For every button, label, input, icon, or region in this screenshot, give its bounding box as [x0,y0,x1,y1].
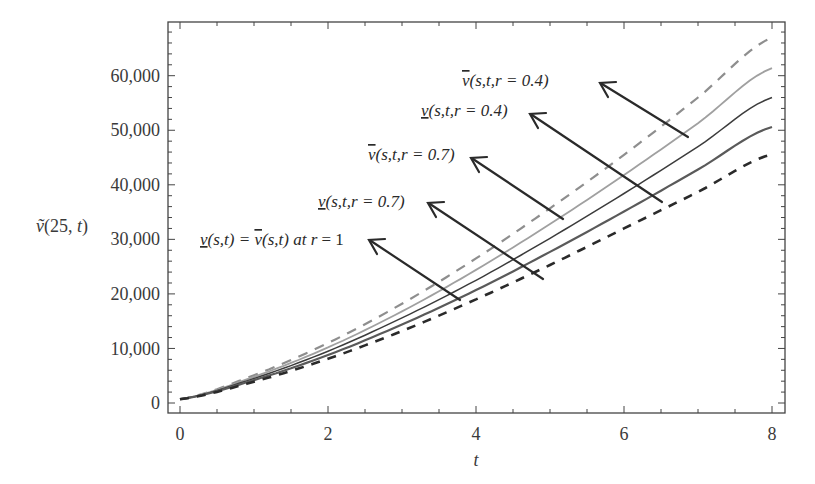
y-tick-0: 0 [151,393,160,413]
x-tick-6: 6 [620,424,629,444]
annotation-vbar-r07: v(s,t,r = 0.7) [368,145,455,164]
y-tick-60000: 60,000 [111,66,161,86]
y-axis-label: ṽ(25, t) [36,216,88,237]
series-line-5 [180,154,772,399]
annotation-vunder-r04: v(s,t,r = 0.4) [421,101,508,120]
annotation-arrows [369,82,688,300]
x-tick-0: 0 [176,424,185,444]
arrow-1-icon [600,82,688,137]
x-axis-label: t [473,450,479,470]
series-line-1 [180,38,772,400]
x-axis-tick-labels: 0 2 4 6 8 [176,424,777,444]
series-lines [180,38,772,400]
arrow-5-icon [369,239,460,300]
arrow-3-icon [471,157,563,219]
chart: 0 10,000 20,000 30,000 40,000 50,000 60,… [0,0,815,484]
y-tick-10000: 10,000 [111,339,161,359]
y-tick-50000: 50,000 [111,120,161,140]
annotation-r1: v(s,t) = v(s,t) at r = 1 [200,230,344,249]
arrow-2-icon [530,113,662,202]
y-axis-tick-labels: 0 10,000 20,000 30,000 40,000 50,000 60,… [111,66,161,413]
annotation-labels: v(s,t,r = 0.4) v(s,t,r = 0.4) v(s,t,r = … [200,71,549,249]
y-tick-20000: 20,000 [111,284,161,304]
x-tick-2: 2 [324,424,333,444]
annotation-vbar-r04: v(s,t,r = 0.4) [462,71,549,90]
x-tick-8: 8 [768,424,777,444]
y-tick-40000: 40,000 [111,175,161,195]
y-tick-30000: 30,000 [111,229,161,249]
annotation-vunder-r07: v(s,t,r = 0.7) [318,192,405,211]
x-tick-4: 4 [472,424,481,444]
